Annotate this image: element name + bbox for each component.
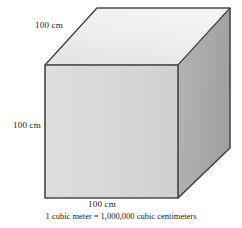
caption-right-term: 1,000,000 cubic centimeters — [101, 211, 197, 221]
figure-caption: 1 cubic meter=1,000,000 cubic centimeter… — [0, 211, 242, 221]
caption-equals-sign: = — [92, 211, 101, 221]
figure-container: 100 cm 100 cm 100 cm 1 cubic meter=1,000… — [0, 0, 242, 228]
caption-left-term: 1 cubic meter — [46, 211, 92, 221]
dimension-label-top: 100 cm — [35, 20, 63, 30]
cube-front-face — [45, 65, 178, 198]
dimension-label-bottom: 100 cm — [88, 199, 116, 209]
dimension-label-left: 100 cm — [13, 120, 41, 130]
cube-illustration — [0, 0, 242, 228]
